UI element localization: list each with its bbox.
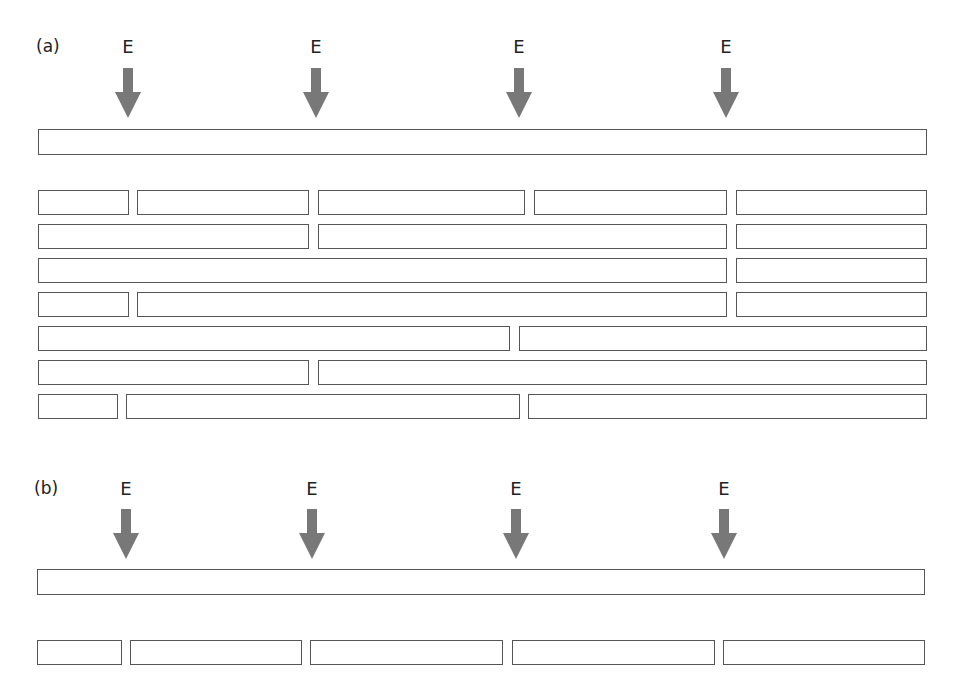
- fragment-bar: [37, 640, 122, 665]
- enzyme-site-label: E: [111, 478, 141, 499]
- enzyme-site-label: E: [113, 36, 143, 57]
- down-arrow-icon: [299, 509, 325, 559]
- fragment-bar: [38, 326, 510, 351]
- fragment-bar: [38, 258, 727, 283]
- enzyme-site-label: E: [709, 478, 739, 499]
- down-arrow-icon: [506, 68, 532, 118]
- fragment-bar: [318, 224, 727, 249]
- fragment-bar: [126, 394, 520, 419]
- fragment-bar: [137, 292, 727, 317]
- fragment-bar: [519, 326, 927, 351]
- fragment-bar: [310, 640, 503, 665]
- fragment-bar: [723, 640, 925, 665]
- panel-a-label: (a): [36, 36, 60, 56]
- fragment-bar: [38, 360, 309, 385]
- fragment-bar: [38, 394, 118, 419]
- down-arrow-icon: [113, 509, 139, 559]
- enzyme-site-label: E: [501, 478, 531, 499]
- fragment-bar: [534, 190, 727, 215]
- fragment-bar: [38, 190, 129, 215]
- fragment-bar: [318, 190, 525, 215]
- panel-b-label: (b): [34, 478, 58, 498]
- enzyme-site-label: E: [297, 478, 327, 499]
- down-arrow-icon: [503, 509, 529, 559]
- fragment-bar: [736, 190, 927, 215]
- down-arrow-icon: [711, 509, 737, 559]
- fragment-bar: [736, 258, 927, 283]
- fragment-bar: [137, 190, 309, 215]
- fragment-bar: [130, 640, 302, 665]
- down-arrow-icon: [713, 68, 739, 118]
- fragment-bar: [528, 394, 927, 419]
- genome-bar: [38, 129, 927, 155]
- genome-bar: [37, 569, 925, 595]
- down-arrow-icon: [115, 68, 141, 118]
- fragment-bar: [512, 640, 715, 665]
- fragment-bar: [736, 292, 927, 317]
- enzyme-site-label: E: [301, 36, 331, 57]
- fragment-bar: [38, 292, 129, 317]
- enzyme-site-label: E: [711, 36, 741, 57]
- down-arrow-icon: [303, 68, 329, 118]
- fragment-bar: [736, 224, 927, 249]
- fragment-bar: [38, 224, 309, 249]
- fragment-bar: [318, 360, 927, 385]
- enzyme-site-label: E: [504, 36, 534, 57]
